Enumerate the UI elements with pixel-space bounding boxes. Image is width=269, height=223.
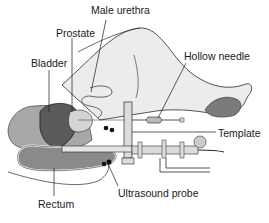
probe-handle-knob bbox=[194, 136, 206, 148]
label-prostate: Prostate bbox=[56, 28, 95, 39]
stepper-base bbox=[160, 158, 210, 172]
label-hollow-needle: Hollow needle bbox=[184, 51, 250, 62]
label-rectum: Rectum bbox=[38, 199, 74, 210]
label-male-urethra: Male urethra bbox=[91, 5, 150, 16]
label-ultrasound-probe: Ultrasound probe bbox=[118, 188, 199, 199]
prostate bbox=[68, 110, 92, 132]
ultrasound-probe-shaft bbox=[62, 146, 132, 152]
brachytherapy-diagram: Male urethra Prostate Bladder Hollow nee… bbox=[0, 0, 269, 223]
label-bladder: Bladder bbox=[31, 58, 67, 69]
label-template: Template bbox=[218, 128, 261, 139]
